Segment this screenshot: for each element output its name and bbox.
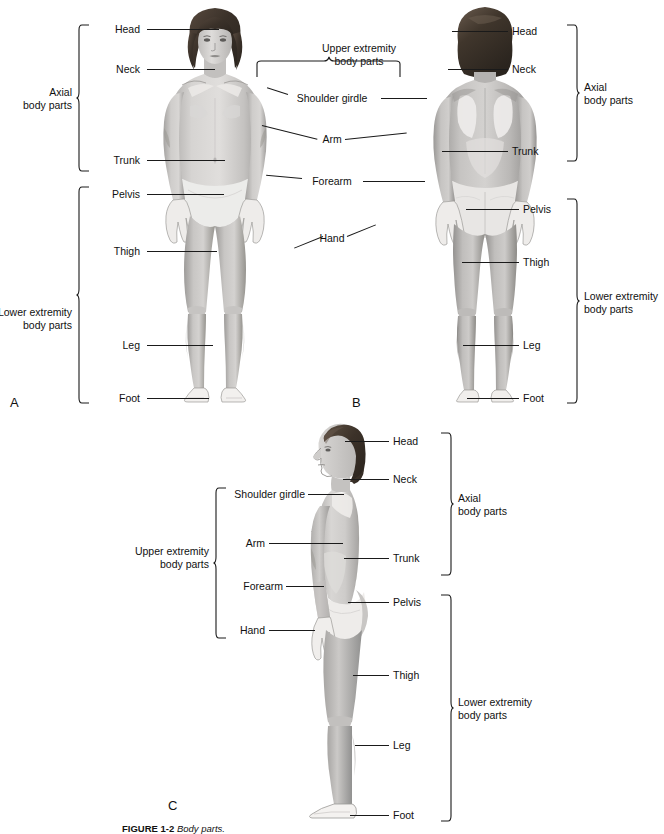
figure-caption-number: FIGURE 1-2 xyxy=(122,823,174,834)
panel-a-leader-head xyxy=(147,29,219,30)
panel-a-leader-neck xyxy=(147,69,215,70)
panel-b-axial-group-label: Axial body parts xyxy=(584,81,633,106)
panel-c-lower-group-label: Lower extremity body parts xyxy=(458,696,532,721)
panel-c-label-head: Head xyxy=(393,435,418,447)
figure-caption-text: Body parts. xyxy=(177,823,225,834)
panel-a-label-leg: Leg xyxy=(122,339,140,351)
shared-label-hand: Hand xyxy=(319,232,344,244)
panel-c-id: C xyxy=(168,798,177,813)
panel-a-axial-group-label: Axial body parts xyxy=(23,86,72,111)
panel-a-leader-leg xyxy=(147,345,213,346)
panel-a-lower-bracket xyxy=(78,186,90,404)
panel-b-leader-foot xyxy=(467,398,519,399)
panel-c-upper-group-label: Upper extremity body parts xyxy=(135,545,209,570)
panel-b-axial-bracket xyxy=(566,24,578,162)
panel-a-label-thigh: Thigh xyxy=(114,245,140,257)
panel-c-label-pelvis: Pelvis xyxy=(393,596,421,608)
panel-c-leader-arm xyxy=(269,543,343,544)
panel-b-leader-thigh xyxy=(462,262,519,263)
panel-c-label-forearm: Forearm xyxy=(243,580,283,592)
panel-a-lower-group-label: Lower extremity body parts xyxy=(0,306,72,331)
panel-b-leader-pelvis xyxy=(466,209,519,210)
panel-c-label-shoulder-girdle: Shoulder girdle xyxy=(234,488,305,500)
panel-c-leader-foot xyxy=(350,815,389,816)
panel-c-label-leg: Leg xyxy=(393,739,411,751)
panel-a-label-foot: Foot xyxy=(119,392,140,404)
panel-b-lower-bracket xyxy=(566,198,578,404)
panel-b-label-pelvis: Pelvis xyxy=(523,203,551,215)
panel-c-leader-leg xyxy=(355,745,389,746)
panel-a-leader-foot xyxy=(147,398,209,399)
panel-a-label-head: Head xyxy=(115,23,140,35)
panel-b-leader-head xyxy=(452,31,508,32)
shared-label-shoulder-girdle: Shoulder girdle xyxy=(297,92,368,104)
panel-c-leader-pelvis xyxy=(348,602,389,603)
panel-c-leader-head xyxy=(345,441,389,442)
panel-b-leader-leg xyxy=(463,345,519,346)
panel-c-leader-hand xyxy=(269,630,315,631)
panel-c-leader-trunk xyxy=(344,558,389,559)
panel-c-axial-bracket xyxy=(440,432,452,576)
panel-b-label-leg: Leg xyxy=(523,339,541,351)
panel-b-label-neck: Neck xyxy=(512,63,536,75)
panel-b-label-trunk: Trunk xyxy=(512,145,538,157)
shared-label-forearm: Forearm xyxy=(312,175,352,187)
panel-c-label-arm: Arm xyxy=(246,537,265,549)
panel-b-lower-group-label: Lower extremity body parts xyxy=(584,290,658,315)
panel-b-leader-trunk xyxy=(442,151,508,152)
shared-leader-arm-right xyxy=(345,133,407,140)
panel-c-leader-forearm xyxy=(286,586,324,587)
panel-c-label-hand: Hand xyxy=(240,624,265,636)
figure-caption: FIGURE 1-2 Body parts. xyxy=(122,823,225,834)
panel-c-upper-bracket xyxy=(215,487,227,639)
panel-a-axial-bracket xyxy=(78,24,90,172)
shared-leader-hand-right xyxy=(347,224,376,237)
panel-b-leader-neck xyxy=(448,69,508,70)
panel-c-figure xyxy=(280,418,400,818)
panel-b-label-foot: Foot xyxy=(523,392,544,404)
panel-c-axial-group-label: Axial body parts xyxy=(458,492,507,517)
panel-c-label-trunk: Trunk xyxy=(393,552,419,564)
panel-c-leader-thigh xyxy=(353,675,389,676)
panel-c-leader-shoulder-girdle xyxy=(308,494,344,495)
panel-a-label-neck: Neck xyxy=(116,63,140,75)
shared-label-arm: Arm xyxy=(322,133,341,145)
panel-a-leader-trunk xyxy=(147,160,225,161)
panel-c-label-thigh: Thigh xyxy=(393,669,419,681)
panel-c-lower-bracket xyxy=(440,594,452,822)
panel-b-id: B xyxy=(352,395,361,410)
upper-extremity-bracket xyxy=(256,56,404,78)
panel-a-label-trunk: Trunk xyxy=(114,154,140,166)
panel-b-label-head: Head xyxy=(512,25,537,37)
panel-a-id: A xyxy=(10,395,19,410)
panel-a-leader-pelvis xyxy=(147,194,224,195)
panel-c-label-foot: Foot xyxy=(393,809,414,821)
panel-a-leader-thigh xyxy=(147,251,217,252)
panel-c-leader-neck xyxy=(343,479,389,480)
panel-c-label-neck: Neck xyxy=(393,473,417,485)
panel-b-label-thigh: Thigh xyxy=(523,256,549,268)
panel-a-label-pelvis: Pelvis xyxy=(112,188,140,200)
